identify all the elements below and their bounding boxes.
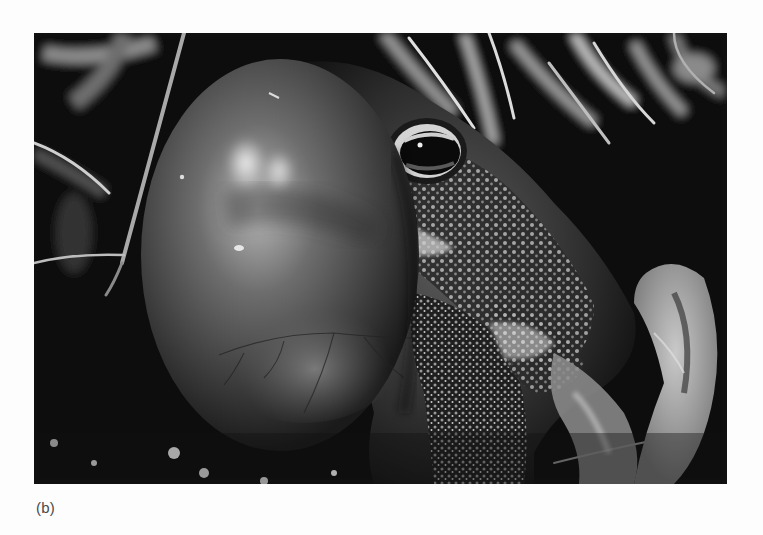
photo-illustration [34,33,727,484]
vocal-sac [141,59,419,451]
toad-vocal-sac-photo [34,33,727,484]
figure-panel: (b) [0,0,763,535]
ground-debris [34,433,727,484]
panel-label: (b) [36,499,55,516]
